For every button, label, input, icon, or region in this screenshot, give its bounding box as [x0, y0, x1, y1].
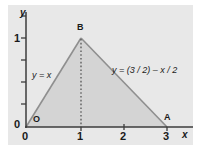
point-label-b: B [77, 23, 84, 32]
point-label-origin: O [33, 115, 40, 124]
x-tick-label-2: 2 [120, 131, 126, 142]
x-axis-label: x [182, 130, 188, 140]
x-tick-label-1: 1 [77, 131, 83, 142]
point-label-a: A [164, 113, 171, 122]
triangle-function-figure: y x 1 0 0 1 2 3 O B A y = x y = (3 / 2) … [0, 0, 201, 150]
plot-graphics [0, 0, 201, 150]
equation-label-right-line: y = (3 / 2) – x / 2 [112, 66, 177, 75]
y-axis-label: y [20, 8, 26, 18]
equation-label-left-line: y = x [32, 71, 51, 80]
x-tick-label-3: 3 [163, 131, 169, 142]
shaded-triangle-region [26, 38, 167, 127]
y-tick-label-0: 0 [14, 119, 20, 130]
y-tick-label-1: 1 [14, 33, 20, 44]
x-tick-label-0: 0 [22, 131, 28, 142]
